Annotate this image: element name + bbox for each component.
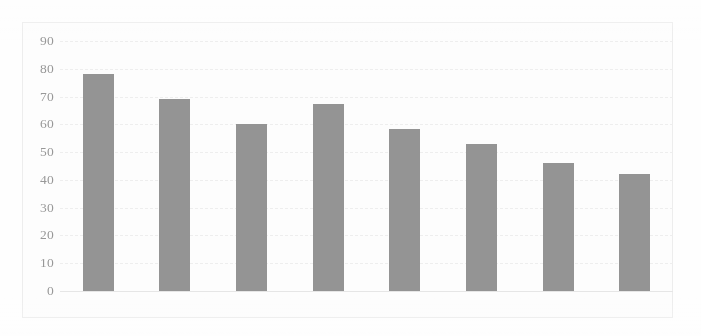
- y-axis-tick-label: 80: [10, 61, 54, 77]
- y-axis-tick-label: 40: [10, 172, 54, 188]
- y-axis-tick-label: 90: [10, 33, 54, 49]
- gridline-80: [60, 69, 673, 70]
- plot-area: 20112012201320142015201620172018: [60, 41, 673, 291]
- y-axis: 9080706050403020100: [6, 41, 54, 291]
- bar-2012[interactable]: [159, 99, 190, 291]
- y-axis-tick-label: 60: [10, 116, 54, 132]
- y-axis-tick-label: 0: [10, 283, 54, 299]
- bar-2011[interactable]: [83, 74, 114, 291]
- bar-chart-screenshot: 9080706050403020100 20112012201320142015…: [0, 0, 701, 336]
- gridline-50: [60, 152, 673, 153]
- y-axis-tick-label: 20: [10, 227, 54, 243]
- gridline-30: [60, 208, 673, 209]
- y-axis-tick-label: 10: [10, 255, 54, 271]
- gridline-70: [60, 97, 673, 98]
- bar-2015[interactable]: [389, 129, 420, 292]
- gridline-10: [60, 263, 673, 264]
- gridline-40: [60, 180, 673, 181]
- bar-2016[interactable]: [466, 144, 497, 291]
- y-axis-tick-label: 50: [10, 144, 54, 160]
- gridline-20: [60, 235, 673, 236]
- gridline-60: [60, 124, 673, 125]
- scan-blur-wrapper: 9080706050403020100 20112012201320142015…: [0, 0, 701, 336]
- y-axis-tick-label: 70: [10, 89, 54, 105]
- gridline-90: [60, 41, 673, 42]
- y-axis-tick-label: 30: [10, 200, 54, 216]
- bar-2013[interactable]: [236, 124, 267, 291]
- bar-2017[interactable]: [543, 163, 574, 291]
- bar-2018[interactable]: [619, 174, 650, 291]
- bar-2014[interactable]: [313, 104, 344, 292]
- x-axis-baseline: [60, 291, 673, 292]
